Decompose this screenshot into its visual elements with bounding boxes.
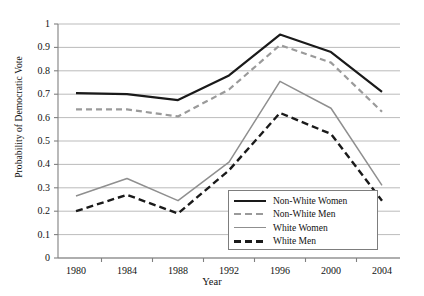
y-tick-label: 0.1 (20, 230, 50, 240)
y-tick-label: 0.9 (20, 42, 50, 52)
series-group (76, 35, 382, 214)
x-tick-label: 1988 (156, 266, 200, 276)
y-tick-label: 0.6 (20, 113, 50, 123)
y-tick-label: 1 (20, 19, 50, 29)
x-axis-title: Year (0, 276, 424, 287)
legend-label: Non-White Men (273, 209, 336, 219)
y-tick-label: 0.7 (20, 89, 50, 99)
legend-item: Non-White Women (229, 194, 377, 208)
legend-swatch-icon (234, 223, 266, 233)
y-tick-label: 0 (20, 253, 50, 263)
legend-item: Non-White Men (229, 208, 377, 222)
y-tick-label: 0.5 (20, 136, 50, 146)
series-line-non-white-women (76, 35, 382, 101)
legend-swatch-icon (234, 196, 266, 206)
x-tick-label: 1980 (54, 266, 98, 276)
y-tick-label: 0.8 (20, 66, 50, 76)
x-tick-label: 2004 (360, 266, 404, 276)
y-tick-label: 0.3 (20, 183, 50, 193)
line-chart: Probability of Democratic Vote 10.90.80.… (0, 0, 424, 296)
y-tick-label: 0.2 (20, 206, 50, 216)
y-tick-label: 0.4 (20, 159, 50, 169)
legend-swatch-icon (234, 209, 266, 219)
legend-swatch-icon (234, 236, 266, 246)
x-tick-label: 1984 (105, 266, 149, 276)
legend-label: Non-White Women (273, 196, 347, 206)
x-tick-label: 2000 (309, 266, 353, 276)
legend-label: White Women (273, 223, 328, 233)
legend: Non-White WomenNon-White MenWhite WomenW… (228, 190, 378, 250)
x-tick-label: 1996 (258, 266, 302, 276)
legend-item: White Men (229, 235, 377, 249)
legend-item: White Women (229, 221, 377, 235)
x-tick-label: 1992 (207, 266, 251, 276)
legend-label: White Men (273, 236, 316, 246)
plot-area (0, 0, 424, 296)
